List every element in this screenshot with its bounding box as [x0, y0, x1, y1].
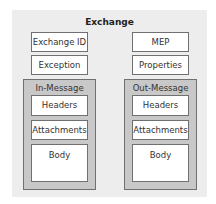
out-message-title: Out-Message — [125, 83, 196, 93]
in-message-container: In-Message Headers Attachments Body — [23, 79, 96, 190]
out-headers-box: Headers — [132, 95, 189, 116]
in-body-box: Body — [31, 144, 88, 182]
exchange-id-box: Exchange ID — [31, 32, 88, 52]
exception-box: Exception — [31, 55, 88, 75]
in-attachments-box: Attachments — [31, 120, 88, 140]
exchange-panel: Exchange Exchange ID Exception MEP Prope… — [12, 10, 207, 197]
in-headers-box: Headers — [31, 95, 88, 116]
out-message-container: Out-Message Headers Attachments Body — [124, 79, 197, 190]
in-message-title: In-Message — [24, 83, 95, 93]
out-body-box: Body — [132, 144, 189, 182]
out-attachments-box: Attachments — [132, 120, 189, 140]
exchange-title: Exchange — [12, 17, 207, 27]
mep-box: MEP — [132, 32, 189, 52]
properties-box: Properties — [132, 55, 189, 75]
